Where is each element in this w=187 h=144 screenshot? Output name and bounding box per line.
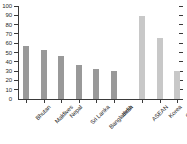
- x-tick-mark: [26, 100, 27, 103]
- bar-fill: [76, 65, 82, 99]
- y-tick: 40: [0, 58, 18, 66]
- bar-fill: [174, 71, 180, 99]
- bar-fill: [157, 38, 163, 99]
- bar: [174, 71, 180, 99]
- y-tick: 100: [0, 2, 18, 10]
- y-tick-label: 10: [6, 86, 12, 94]
- x-tick-mark: [61, 100, 62, 103]
- x-axis-label: China: [184, 104, 187, 120]
- x-axis-line: [18, 99, 179, 100]
- bars-layer: [18, 6, 184, 99]
- y-tick: 90: [0, 11, 18, 19]
- bar-chart: 0102030405060708090100 BhutanMaldivesNep…: [0, 0, 187, 144]
- bar-fill: [58, 56, 64, 99]
- x-tick-mark: [177, 100, 178, 103]
- y-tick-label: 50: [6, 49, 12, 57]
- y-tick: 0: [0, 95, 18, 103]
- y-tick-label: 20: [6, 76, 12, 84]
- y-tick: 30: [0, 67, 18, 75]
- y-tick-label: 80: [6, 21, 12, 29]
- bar-fill: [111, 71, 117, 99]
- x-axis-label: ASEAN: [151, 104, 170, 123]
- y-tick-label: 100: [2, 2, 12, 10]
- x-tick-mark: [96, 100, 97, 103]
- y-tick: 60: [0, 39, 18, 47]
- y-tick-label: 90: [6, 11, 12, 19]
- y-tick-label: 0: [9, 95, 12, 103]
- x-tick-mark: [142, 100, 143, 103]
- y-tick-label: 30: [6, 67, 12, 75]
- y-tick-label: 40: [6, 58, 12, 66]
- bar: [111, 71, 117, 99]
- bar: [157, 38, 163, 99]
- y-tick: 10: [0, 86, 18, 94]
- x-axis-labels: BhutanMaldivesNepalSri LankaBangladeshIn…: [0, 104, 187, 144]
- bar: [93, 69, 99, 99]
- bar: [23, 46, 29, 99]
- bar-fill: [93, 69, 99, 99]
- y-tick: 20: [0, 76, 18, 84]
- y-tick: 70: [0, 30, 18, 38]
- y-axis: 0102030405060708090100: [0, 0, 18, 99]
- bar-fill: [41, 50, 47, 99]
- y-tick-label: 70: [6, 30, 12, 38]
- bar: [76, 65, 82, 99]
- x-axis-label: Bhutan: [34, 104, 52, 122]
- bar: [58, 56, 64, 99]
- bar: [139, 16, 145, 99]
- x-tick-mark: [160, 100, 161, 103]
- bar: [41, 50, 47, 99]
- bar-fill: [139, 16, 145, 99]
- y-tick: 50: [0, 49, 18, 57]
- x-tick-mark: [114, 100, 115, 103]
- bar-fill: [23, 46, 29, 99]
- x-axis-label: Sri Lanka: [89, 104, 111, 126]
- x-axis-label: Korea: [167, 104, 183, 120]
- y-tick-label: 60: [6, 39, 12, 47]
- x-tick-mark: [44, 100, 45, 103]
- y-tick: 80: [0, 21, 18, 29]
- x-tick-mark: [79, 100, 80, 103]
